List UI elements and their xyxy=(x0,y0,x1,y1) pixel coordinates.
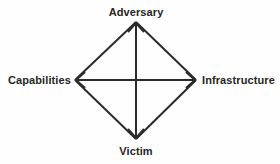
edge-victim-capabilities xyxy=(75,80,136,139)
node-label-victim: Victim xyxy=(0,145,272,157)
edge-capabilities-adversary xyxy=(75,22,136,80)
diamond-model-diagram: Adversary Capabilities Infrastructure Vi… xyxy=(0,0,280,164)
node-label-adversary: Adversary xyxy=(0,6,272,18)
node-label-capabilities: Capabilities xyxy=(8,74,71,86)
edge-infrastructure-victim xyxy=(136,80,196,139)
node-label-infrastructure: Infrastructure xyxy=(202,74,275,86)
edge-adversary-infrastructure xyxy=(136,22,196,80)
